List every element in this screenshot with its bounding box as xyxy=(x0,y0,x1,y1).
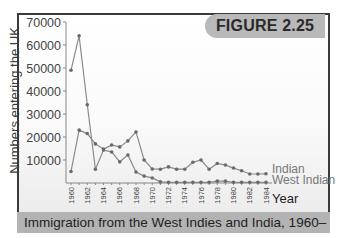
data-series xyxy=(69,34,268,184)
data-point xyxy=(85,103,89,107)
x-tick-label: 1962 xyxy=(83,187,92,204)
y-tick-label: 40000 xyxy=(26,85,61,99)
data-point xyxy=(134,170,138,174)
data-point xyxy=(167,165,171,169)
x-tick-label: 1966 xyxy=(115,187,124,204)
x-axis-label: Year xyxy=(272,191,299,206)
legend: IndianWest IndianYear xyxy=(272,162,335,206)
data-point xyxy=(126,139,130,143)
data-point xyxy=(256,181,260,185)
data-point xyxy=(199,181,203,185)
data-point xyxy=(69,170,73,174)
data-point xyxy=(134,130,138,134)
data-point xyxy=(191,161,195,165)
data-point xyxy=(175,181,179,185)
data-point xyxy=(110,150,114,154)
data-point xyxy=(248,172,252,176)
data-point xyxy=(94,142,98,146)
data-point xyxy=(215,179,219,183)
y-tick-label: 50000 xyxy=(26,62,61,76)
y-tick-label: 20000 xyxy=(26,131,61,145)
data-point xyxy=(126,153,130,157)
data-point xyxy=(224,163,228,167)
legend-west-indian: West Indian xyxy=(272,173,335,187)
data-point xyxy=(159,180,163,184)
data-point xyxy=(240,169,244,173)
x-tick-label: 1974 xyxy=(180,187,189,204)
data-point xyxy=(69,69,73,73)
data-point xyxy=(224,179,228,183)
data-point xyxy=(191,181,195,185)
x-tick-label: 1984 xyxy=(262,187,271,204)
y-tick-label: 30000 xyxy=(26,108,61,122)
axes xyxy=(66,22,272,183)
data-point xyxy=(256,172,260,176)
data-point xyxy=(102,148,106,152)
figure-caption: Immigration from the West Indies and Ind… xyxy=(17,212,330,233)
data-point xyxy=(207,167,211,171)
data-point xyxy=(183,167,187,171)
x-tick-label: 1968 xyxy=(132,187,141,204)
data-point xyxy=(142,158,146,162)
data-point xyxy=(159,167,163,171)
y-tick-label: 70000 xyxy=(26,16,61,30)
data-point xyxy=(167,181,171,185)
data-point xyxy=(142,174,146,178)
x-axis-ticks: 1960196219641966196819701972197419761978… xyxy=(67,183,271,204)
data-point xyxy=(77,34,81,38)
data-point xyxy=(94,167,98,171)
data-point xyxy=(215,162,219,166)
series-indian xyxy=(69,128,268,176)
data-point xyxy=(199,158,203,162)
data-point xyxy=(264,181,268,185)
data-point xyxy=(118,145,122,149)
data-point xyxy=(183,181,187,185)
data-point xyxy=(85,132,89,136)
data-point xyxy=(150,176,154,180)
series-west-indian xyxy=(69,34,268,184)
data-point xyxy=(150,167,154,171)
line-chart: 10000200003000040000500006000070000 1960… xyxy=(0,0,347,238)
data-point xyxy=(264,172,268,176)
y-tick-label: 10000 xyxy=(26,154,61,168)
data-point xyxy=(207,181,211,185)
y-tick-label: 60000 xyxy=(26,39,61,53)
data-point xyxy=(232,181,236,185)
x-tick-label: 1982 xyxy=(245,187,254,204)
data-point xyxy=(240,181,244,185)
data-point xyxy=(77,128,81,132)
data-point xyxy=(110,143,114,147)
x-tick-label: 1978 xyxy=(213,187,222,204)
x-tick-label: 1976 xyxy=(197,187,206,204)
x-tick-label: 1972 xyxy=(164,187,173,204)
data-point xyxy=(118,160,122,164)
data-point xyxy=(248,181,252,185)
x-tick-label: 1970 xyxy=(148,187,157,204)
x-tick-label: 1964 xyxy=(99,187,108,204)
x-tick-label: 1980 xyxy=(229,187,238,204)
data-point xyxy=(232,166,236,170)
y-axis-ticks: 10000200003000040000500006000070000 xyxy=(26,16,66,168)
x-tick-label: 1960 xyxy=(67,187,76,204)
data-point xyxy=(175,167,179,171)
